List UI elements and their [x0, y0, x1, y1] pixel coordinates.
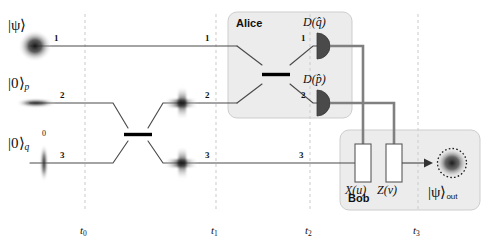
- gate-z: [386, 144, 402, 182]
- mode-number-3-t2: 3: [299, 150, 304, 160]
- output-ket-psi: |ψ⟩out: [428, 183, 458, 201]
- mode-number-1-t1: 1: [205, 33, 210, 43]
- gate-x: [355, 144, 371, 182]
- timeline-label-t3: t3: [413, 224, 420, 238]
- input-zero-q-extra-label: 0: [42, 129, 46, 138]
- timeline-label-t1: t1: [211, 224, 218, 238]
- timeline-label-t2: t2: [305, 224, 312, 238]
- input-ket-zero-p: |0⟩p: [8, 74, 29, 92]
- wigner-epr-mode-2: [164, 86, 198, 120]
- detector-dp-label: D(p̂): [303, 72, 326, 87]
- figure-canvas: |ψ⟩ |0⟩p |0⟩q 0 1 2 3 1 2 3 1 2 3 Alice …: [0, 0, 490, 251]
- wigner-input-psi: [18, 30, 52, 62]
- mode-number-3-t1: 3: [205, 150, 210, 160]
- input-ket-psi: |ψ⟩: [8, 16, 26, 34]
- circuit-graphics: [0, 0, 490, 251]
- input-ket-zero-q: |0⟩q: [8, 134, 29, 152]
- detector-dq-label: D(q̂): [303, 15, 326, 30]
- mode-number-2-t1: 2: [205, 90, 210, 100]
- timeline-label-t0: t0: [80, 224, 87, 238]
- mode-number-2-source: 2: [60, 90, 65, 100]
- gate-z-label: Z(v): [377, 183, 397, 198]
- wigner-epr-mode-3: [164, 146, 198, 180]
- mode-number-1-alice-out: 1: [301, 33, 306, 43]
- wigner-input-zero-p: [16, 99, 56, 107]
- mode-number-3-source: 3: [60, 150, 65, 160]
- mode-number-2-alice-out: 2: [301, 90, 306, 100]
- gate-x-label: X(u): [345, 183, 366, 198]
- wigner-input-zero-q: [40, 144, 47, 182]
- alice-label: Alice: [236, 17, 262, 29]
- mode-number-1-source: 1: [54, 33, 59, 43]
- wigner-output-psi: [436, 148, 468, 178]
